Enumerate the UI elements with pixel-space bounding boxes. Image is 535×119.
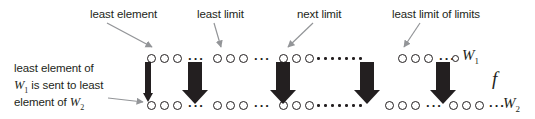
w2-condensed-dot: [352, 104, 355, 107]
w2-ordinal-dot: [411, 101, 420, 110]
w2-ordinal-dot: [475, 101, 484, 110]
w1-ordinal-dot: [173, 54, 182, 63]
w1-condensed-dot: [359, 57, 362, 60]
callout-least-limit-of-limits: least limit of limits: [392, 8, 480, 20]
row-label-w2: W2: [503, 95, 520, 114]
map-arrow-4-head: [354, 90, 380, 104]
pointer-least-limit: [214, 23, 221, 47]
map-label-f: f: [492, 68, 497, 90]
w1-condensed-dot: [317, 57, 320, 60]
w1-condensed-dot: [324, 57, 327, 60]
w1-ordinal-dot: [226, 54, 235, 63]
w1-ordinal-dot: [239, 54, 248, 63]
w1-ordinal-dot: [411, 54, 420, 63]
w1-ordinal-dot: [398, 54, 407, 63]
w2-ordinal-dot: [385, 101, 394, 110]
w2-condensed-dot: [359, 104, 362, 107]
map-arrow-5: [430, 62, 456, 104]
left-note-line-2: W1 is sent to least: [14, 77, 103, 94]
w2-ordinal-dot: [398, 101, 407, 110]
map-arrow-3-shaft: [276, 62, 290, 90]
w1-inline-var: W1: [14, 78, 28, 92]
w2-ellipsis: ···: [254, 99, 271, 113]
row-label-w1: W1: [462, 47, 479, 66]
w2-ordinal-dot: [213, 101, 222, 110]
map-arrow-4: [354, 62, 380, 104]
w2-condensed-dot: [324, 104, 327, 107]
map-arrow-1-head: [143, 93, 153, 102]
map-arrow-2-head: [182, 90, 208, 104]
map-arrow-3-head: [270, 90, 296, 104]
w1-condensed-dot: [331, 57, 334, 60]
pointer-least-limit-of-limits: [404, 23, 420, 47]
w2-ordinal-dot: [160, 101, 169, 110]
w2-ordinal-dot: [462, 101, 471, 110]
w1-condensed-dot: [352, 57, 355, 60]
map-arrow-2: [182, 62, 208, 104]
w2-ordinal-dot: [239, 101, 248, 110]
map-arrow-5-shaft: [436, 62, 450, 90]
w2-ordinal-dot: [173, 101, 182, 110]
w1-ellipsis: ···: [254, 52, 271, 66]
w1-ordinal-dot: [305, 54, 314, 63]
map-arrow-5-head: [430, 90, 456, 104]
w1-condensed-dot: [338, 57, 341, 60]
map-arrow-2-shaft: [188, 62, 202, 90]
w2-condensed-dot: [317, 104, 320, 107]
map-arrow-4-shaft: [360, 62, 374, 90]
w1-ordinal-dot: [213, 54, 222, 63]
callout-least-element: least element: [90, 8, 157, 20]
w2-ordinal-dot: [226, 101, 235, 110]
w2-condensed-dot: [338, 104, 341, 107]
figure-canvas: least elementleast limitnext limitleast …: [0, 0, 535, 119]
pointer-least-element: [107, 23, 152, 47]
map-arrow-1: [143, 62, 154, 102]
w2-condensed-dot: [345, 104, 348, 107]
w2-ordinal-dot: [305, 101, 314, 110]
callout-least-limit: least limit: [197, 8, 244, 20]
pointer-next-limit: [288, 23, 313, 47]
w1-ordinal-dot: [452, 55, 459, 62]
w2-ordinal-dot: [147, 101, 156, 110]
map-arrow-3: [270, 62, 296, 104]
callout-next-limit: next limit: [297, 8, 341, 20]
left-note-line-2-text: is sent to least: [28, 79, 103, 91]
w1-condensed-dot: [345, 57, 348, 60]
map-arrow-1-shaft: [145, 62, 151, 93]
w1-ordinal-dot: [160, 54, 169, 63]
w2-condensed-dot: [331, 104, 334, 107]
